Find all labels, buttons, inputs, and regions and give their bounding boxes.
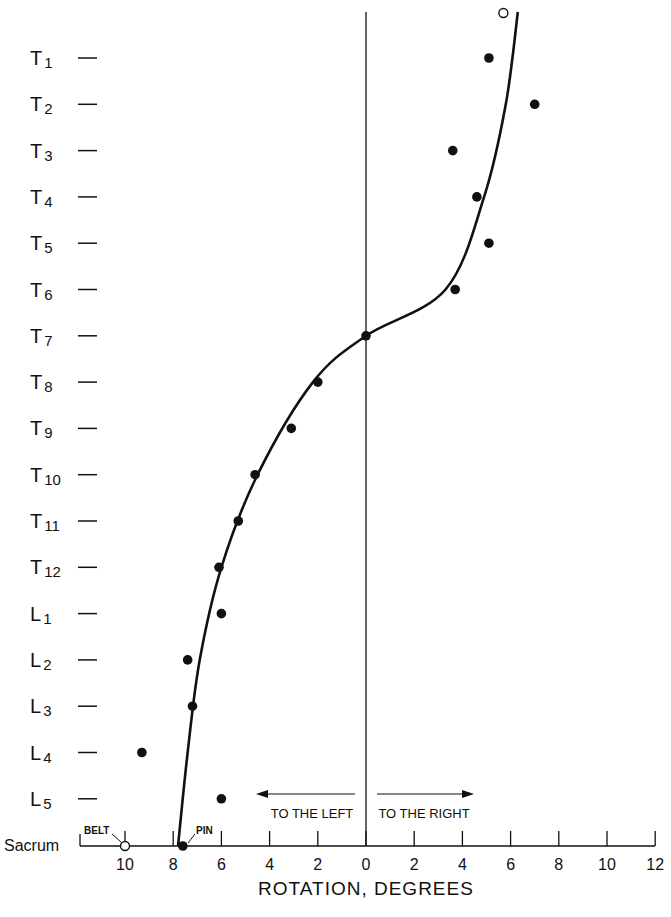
label-l4: L4 <box>30 742 51 766</box>
x-axis: 108642024681012 <box>80 831 664 873</box>
point-t8 <box>313 377 323 387</box>
label-t1: T1 <box>30 47 53 71</box>
label-t7: T7 <box>30 325 53 349</box>
belt-label: BELT <box>84 825 109 836</box>
point-l2 <box>183 655 193 665</box>
label-l5: L5 <box>30 788 51 812</box>
fitted-curve <box>178 12 518 846</box>
label-l3: L3 <box>30 695 51 719</box>
point-t6 <box>450 285 460 295</box>
label-l1: L1 <box>30 603 51 627</box>
point-l3 <box>188 701 198 711</box>
vertebra-labels: T1T2T3T4T5T6T7T8T9T10T11T12L1L2L3L4L5Sac… <box>4 47 97 854</box>
label-l2: L2 <box>30 649 51 673</box>
label-t9: T9 <box>30 417 53 441</box>
belt-pin-annotations: BELT PIN <box>84 825 213 843</box>
point-l4 <box>137 748 147 758</box>
point-sacrum <box>178 841 188 851</box>
point-t3 <box>448 146 458 156</box>
x-tick-label: 8 <box>169 856 178 873</box>
label-t5: T5 <box>30 232 53 256</box>
point-t4 <box>472 192 482 202</box>
pin-label: PIN <box>196 825 213 836</box>
x-tick-label: 10 <box>116 856 134 873</box>
arrow-left-icon <box>256 790 268 798</box>
x-tick-label: 12 <box>646 856 664 873</box>
label-t3: T3 <box>30 140 53 164</box>
open-point-sacrum <box>121 842 130 851</box>
label-t12: T12 <box>30 556 61 580</box>
point-t7 <box>361 331 371 341</box>
point-t2 <box>530 100 540 110</box>
x-tick-label: 6 <box>217 856 226 873</box>
x-tick-label: 0 <box>362 856 371 873</box>
spine-rotation-chart: T1T2T3T4T5T6T7T8T9T10T11T12L1L2L3L4L5Sac… <box>0 0 671 917</box>
x-tick-label: 2 <box>313 856 322 873</box>
x-tick-label: 8 <box>554 856 563 873</box>
label-t2: T2 <box>30 93 53 117</box>
to-the-left-label: TO THE LEFT <box>271 806 354 821</box>
x-tick-label: 4 <box>458 856 467 873</box>
label-sacrum: Sacrum <box>4 837 59 854</box>
label-t8: T8 <box>30 371 53 395</box>
label-t11: T11 <box>30 510 60 534</box>
x-tick-label: 6 <box>506 856 515 873</box>
point-t5 <box>484 238 494 248</box>
label-t6: T6 <box>30 279 53 303</box>
point-l5 <box>217 794 227 804</box>
point-l1 <box>217 609 227 619</box>
x-tick-label: 10 <box>598 856 616 873</box>
point-t10 <box>250 470 260 480</box>
label-t10: T10 <box>30 464 61 488</box>
x-axis-title: ROTATION, DEGREES <box>258 878 474 899</box>
data-points <box>121 9 540 851</box>
arrow-right-icon <box>462 790 474 798</box>
direction-arrows: TO THE LEFT TO THE RIGHT <box>256 790 474 821</box>
x-tick-label: 2 <box>410 856 419 873</box>
point-t1 <box>484 53 494 63</box>
label-t4: T4 <box>30 186 53 210</box>
to-the-right-label: TO THE RIGHT <box>378 806 469 821</box>
point-t9 <box>286 424 296 434</box>
open-point-above-t1 <box>499 9 508 18</box>
point-t11 <box>233 516 243 526</box>
x-tick-label: 4 <box>265 856 274 873</box>
point-t12 <box>214 563 224 573</box>
